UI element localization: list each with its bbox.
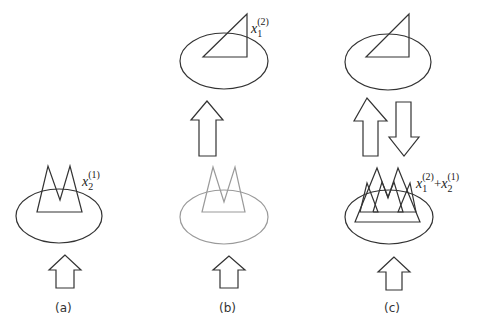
- ellipse-b-bottom: [180, 190, 268, 244]
- combined-shape-inner: [360, 183, 378, 212]
- caption-c: (c): [384, 301, 400, 315]
- label-c: x1(2)+x2(1): [415, 171, 459, 194]
- ellipse-c-top: [345, 34, 431, 90]
- ellipse-b-top: [180, 33, 268, 89]
- diagram-canvas: x2(1) (a) x1(2) (b) x1(2)+x2(1) (c): [0, 0, 478, 330]
- up-arrow-icon: [49, 255, 81, 288]
- up-arrow-icon: [191, 101, 223, 156]
- label-a: x2(1): [81, 169, 100, 192]
- caption-b: (b): [219, 301, 236, 315]
- up-arrow-icon: [354, 98, 387, 156]
- panel-c: x1(2)+x2(1) (c): [345, 14, 459, 315]
- panel-a: x2(1) (a): [16, 166, 102, 315]
- ellipse-c-bottom: [345, 190, 433, 244]
- caption-a: (a): [55, 301, 72, 315]
- combined-shape-middle: [373, 182, 403, 212]
- panel-b: x1(2) (b): [180, 14, 269, 315]
- label-b: x1(2): [250, 16, 269, 39]
- up-arrow-icon: [213, 256, 245, 288]
- up-arrow-icon: [378, 257, 410, 290]
- combined-shape-inner-right: [398, 183, 416, 212]
- down-arrow-icon: [389, 102, 419, 156]
